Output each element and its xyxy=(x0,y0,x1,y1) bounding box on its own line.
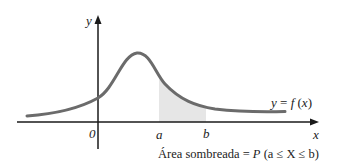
caption-expr: (a ≤ X ≤ b) xyxy=(261,147,320,161)
y-axis-label: y xyxy=(86,14,92,27)
curve-label: y = f (x) xyxy=(271,96,312,109)
a-label: a xyxy=(156,128,163,141)
caption-p: P xyxy=(253,147,261,161)
density-curve xyxy=(27,53,285,116)
caption-prefix: Área sombreada = xyxy=(158,147,253,161)
caption: Área sombreada = P (a ≤ X ≤ b) xyxy=(158,148,319,161)
b-label: b xyxy=(203,127,210,140)
x-axis-label: x xyxy=(313,128,319,141)
origin-label: 0 xyxy=(89,127,96,140)
x-axis-arrow-icon xyxy=(310,119,319,126)
y-axis-arrow-icon xyxy=(95,15,102,24)
density-diagram xyxy=(0,0,337,167)
